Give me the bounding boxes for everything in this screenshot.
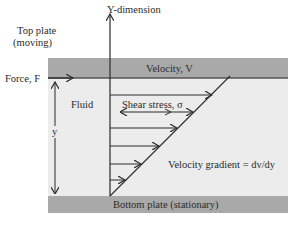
force-label: Force, F <box>5 73 40 85</box>
top-plate-label: Top plate <box>17 25 56 37</box>
fluid-label: Fluid <box>71 99 93 111</box>
axis-label: Y-dimension <box>107 4 161 16</box>
shear-stress-label: Shear stress, σ <box>122 99 183 111</box>
velocity-label: Velocity, V <box>146 63 193 75</box>
y-label: y <box>52 126 57 138</box>
fluid-region <box>48 78 288 196</box>
velocity-gradient-label: Velocity gradient = dv/dy <box>168 159 275 171</box>
bottom-plate-label: Bottom plate (stationary) <box>113 199 219 211</box>
top-plate-sub: (moving) <box>13 37 52 49</box>
